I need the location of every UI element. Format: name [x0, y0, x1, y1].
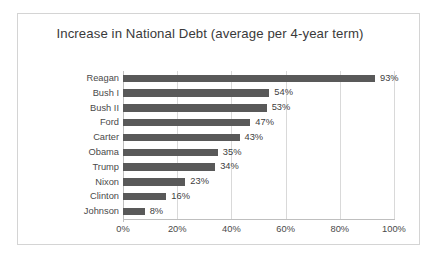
bar-row: 43%: [123, 130, 394, 145]
x-tick-label: 40%: [222, 222, 241, 236]
category-label: Carter: [93, 130, 119, 145]
bar[interactable]: [123, 163, 215, 170]
bars-area: 93%54%53%47%43%35%34%23%16%8%: [123, 71, 394, 219]
x-axis-tick-labels: 0%20%40%60%80%100%: [123, 222, 395, 240]
x-tick-label: 60%: [276, 222, 295, 236]
bar-value-label: 93%: [380, 72, 399, 86]
bar-row: 35%: [123, 145, 394, 160]
bar[interactable]: [123, 178, 185, 185]
x-tick-label: 0%: [116, 222, 129, 236]
bar-value-label: 8%: [150, 205, 163, 219]
bar[interactable]: [123, 134, 240, 141]
bar[interactable]: [123, 119, 250, 126]
bar-row: 23%: [123, 175, 394, 190]
bar-row: 34%: [123, 160, 394, 175]
bar[interactable]: [123, 208, 145, 215]
category-label: Reagan: [86, 71, 119, 86]
category-label: Ford: [100, 115, 119, 130]
bar-value-label: 53%: [272, 101, 291, 115]
gridline: [394, 71, 395, 219]
bar[interactable]: [123, 75, 375, 82]
category-label: Trump: [92, 160, 119, 175]
category-label: Clinton: [90, 189, 119, 204]
category-label: Bush II: [90, 101, 119, 116]
category-label: Johnson: [84, 204, 119, 219]
bar-value-label: 54%: [274, 86, 293, 100]
x-tick-label: 80%: [330, 222, 349, 236]
bar-row: 93%: [123, 71, 394, 86]
bar-row: 47%: [123, 115, 394, 130]
x-tick-label: 20%: [168, 222, 187, 236]
chart-title: Increase in National Debt (average per 4…: [40, 24, 380, 43]
plot-area: ReaganBush IBush IIFordCarterObamaTrumpN…: [72, 71, 394, 219]
bar-row: 16%: [123, 189, 394, 204]
chart-container: Increase in National Debt (average per 4…: [17, 13, 420, 245]
bar-value-label: 43%: [245, 131, 264, 145]
bar-value-label: 47%: [255, 116, 274, 130]
category-label: Bush I: [93, 86, 119, 101]
bar[interactable]: [123, 149, 218, 156]
bar-value-label: 34%: [220, 160, 239, 174]
bar[interactable]: [123, 193, 166, 200]
bar-row: 54%: [123, 86, 394, 101]
category-label: Nixon: [95, 175, 119, 190]
category-axis-labels: ReaganBush IBush IIFordCarterObamaTrumpN…: [72, 71, 123, 219]
x-axis-line: [123, 219, 395, 220]
bar-value-label: 35%: [223, 146, 242, 160]
bar-value-label: 16%: [171, 190, 190, 204]
x-tick-label: 100%: [382, 222, 406, 236]
bar-row: 8%: [123, 204, 394, 219]
bar[interactable]: [123, 104, 267, 111]
bar[interactable]: [123, 89, 269, 96]
bar-value-label: 23%: [190, 175, 209, 189]
category-label: Obama: [89, 145, 120, 160]
bar-row: 53%: [123, 101, 394, 116]
